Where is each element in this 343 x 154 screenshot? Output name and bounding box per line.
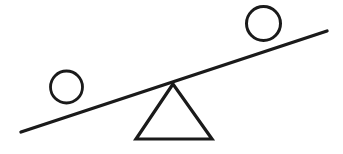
lever-diagram-svg: Lever and fulcrum balance diagram [0, 0, 343, 154]
diagram-background [0, 0, 343, 154]
lever-diagram-canvas: Lever and fulcrum balance diagram [0, 0, 343, 154]
